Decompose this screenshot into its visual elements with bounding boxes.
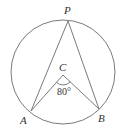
label-B: B <box>98 112 105 124</box>
circle-diagram: P C A B 80° <box>0 0 125 133</box>
angle-label-C: 80° <box>57 86 71 97</box>
label-A: A <box>19 114 27 126</box>
segment-PB <box>68 21 99 109</box>
angle-arc-C <box>56 82 70 85</box>
label-C: C <box>59 61 67 73</box>
label-P: P <box>63 4 71 16</box>
